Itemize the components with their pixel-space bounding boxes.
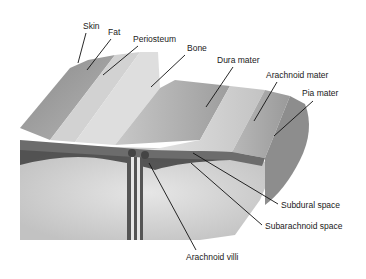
leader-line-pia-mater — [274, 101, 313, 136]
label-pia-mater: Pia mater — [302, 89, 338, 98]
leader-line-skin — [78, 33, 86, 63]
label-subarachnoid-space: Subarachnoid space — [265, 222, 343, 231]
leader-line-periosteum — [103, 46, 138, 75]
meninges-diagram: Skin Fat Periosteum Bone Dura mater Arac… — [0, 0, 366, 279]
label-arachnoid-mater: Arachnoid mater — [266, 71, 328, 80]
leader-line-fat — [87, 39, 111, 70]
label-periosteum: Periosteum — [133, 35, 176, 44]
label-subdural-space: Subdural space — [281, 201, 340, 210]
leader-lines — [0, 0, 366, 279]
leader-line-arachnoid-villi — [149, 163, 196, 250]
leader-line-subarachnoid-space — [191, 163, 262, 225]
label-arachnoid-villi: Arachnoid villi — [186, 253, 238, 262]
label-fat: Fat — [108, 28, 120, 37]
leader-line-bone — [151, 55, 185, 87]
label-skin: Skin — [83, 22, 100, 31]
label-bone: Bone — [187, 44, 207, 53]
label-dura-mater: Dura mater — [217, 56, 260, 65]
leader-line-dura-mater — [206, 67, 233, 107]
leader-line-arachnoid-mater — [254, 82, 277, 121]
leader-line-subdural-space — [193, 153, 278, 204]
